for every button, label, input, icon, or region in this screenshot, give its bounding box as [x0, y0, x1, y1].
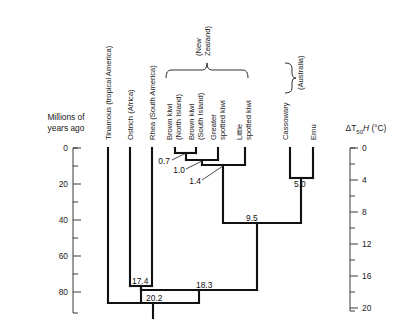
tip-label-brown-kiwi-south-line1: Brown kiwi [187, 103, 196, 140]
right-axis-label-16: 16 [362, 271, 372, 281]
tip-label-brown-kiwi-south-line2: (South Island) [196, 92, 205, 140]
left-axis-title-line1: Millions of [47, 112, 85, 122]
left-axis-label-80: 80 [59, 287, 69, 297]
left-axis-label-20: 20 [59, 179, 69, 189]
node-label-0-7: 0.7 [158, 156, 170, 166]
leader-node-1-4 [202, 166, 223, 180]
tip-label-tinamous: Tinamous (tropical America) [104, 45, 113, 140]
node-label-1-0: 1.0 [173, 165, 185, 175]
tip-label-ostrich: Ostrich (Africa) [126, 89, 135, 140]
left-axis-title-line2: years ago [48, 123, 85, 133]
region-braces: (New Zealand) (Australia) [166, 26, 305, 93]
region-label-australia: (Australia) [296, 55, 305, 90]
tip-label-greater-spotted-kiwi-line1: Greater [209, 114, 218, 140]
left-axis-spine [73, 148, 78, 313]
right-axis-label-0: 0 [362, 143, 367, 153]
tip-label-emu: Emu [309, 124, 318, 140]
region-label-new-zealand-line1: (New [194, 38, 203, 56]
tip-label-brown-kiwi-north-line2: (North Island) [174, 94, 183, 140]
node-labels: 0.7 1.0 1.4 5.0 9.5 17.4 18.3 20.2 [132, 156, 306, 303]
right-axis: ΔT50H (°C) 0 4 8 12 16 20 [346, 123, 387, 313]
left-axis-label-40: 40 [59, 215, 69, 225]
node-label-1-4: 1.4 [189, 176, 201, 186]
brace-australia [285, 63, 296, 93]
leader-node-1-0 [186, 161, 202, 169]
node-label-5-0: 5.0 [294, 179, 306, 189]
right-axis-title: ΔT50H (°C) [346, 123, 387, 135]
node-label-17-4: 17.4 [132, 276, 149, 286]
tip-label-little-spotted-kiwi-line1: Little [235, 124, 244, 140]
phylogenetic-tree-figure: Millions of years ago 0 20 40 60 80 ΔT50… [0, 0, 404, 333]
tip-label-brown-kiwi-north-line1: Brown kiwi [165, 103, 174, 140]
right-axis-label-20: 20 [362, 303, 372, 313]
tip-label-greater-spotted-kiwi-line2: spotted kiwi [218, 100, 227, 140]
left-axis-label-60: 60 [59, 251, 69, 261]
brace-new-zealand [166, 63, 248, 78]
region-label-new-zealand-line2: Zealand) [203, 26, 212, 56]
left-axis-label-0: 0 [63, 143, 68, 153]
right-axis-label-8: 8 [362, 207, 367, 217]
right-axis-label-4: 4 [362, 175, 367, 185]
right-axis-spine [350, 148, 355, 311]
node-label-9-5: 9.5 [246, 213, 258, 223]
right-axis-label-12: 12 [362, 239, 372, 249]
node-label-20-2: 20.2 [146, 293, 163, 303]
right-axis-title-prefix: ΔT [346, 123, 357, 133]
tip-label-rhea: Rhea (South America) [148, 65, 157, 140]
tree-branches [108, 148, 313, 318]
node-label-18-3: 18.3 [196, 280, 213, 290]
tip-label-cassowary: Cassowary [281, 102, 290, 140]
tip-label-little-spotted-kiwi-line2: spotted kiwi [244, 100, 253, 140]
right-axis-title-suffix: (°C) [369, 123, 387, 133]
left-axis: Millions of years ago 0 20 40 60 80 [47, 112, 85, 313]
